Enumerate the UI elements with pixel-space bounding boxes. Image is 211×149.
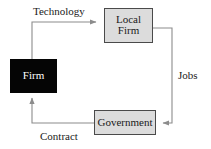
node-government-label: Government bbox=[98, 117, 153, 129]
edge-contract-path bbox=[32, 98, 94, 123]
node-local-firm-label-line2: Firm bbox=[118, 25, 139, 37]
edge-label-contract: Contract bbox=[40, 130, 78, 142]
node-firm-label: Firm bbox=[23, 70, 44, 82]
edge-label-jobs: Jobs bbox=[178, 69, 198, 81]
edge-jobs-path bbox=[153, 28, 172, 123]
node-local-firm: Local Firm bbox=[104, 8, 153, 43]
node-firm: Firm bbox=[10, 59, 57, 93]
node-government: Government bbox=[94, 110, 156, 135]
edge-label-technology: Technology bbox=[33, 5, 85, 17]
flow-diagram: Firm Local Firm Government Technology Jo… bbox=[0, 0, 211, 149]
